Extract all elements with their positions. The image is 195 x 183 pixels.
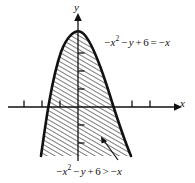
equation-of-boundary-label: −x2−y+6=−x — [104, 36, 170, 48]
graph-figure: −x2−y+6=−x −x2−y+6>−x x y — [0, 0, 195, 183]
variable-x-rhs: x — [165, 36, 170, 48]
y-axis-label: y — [74, 1, 79, 13]
shaded-region — [0, 0, 195, 183]
x-axis-label: x — [180, 97, 185, 109]
plus-operator: + — [86, 165, 95, 177]
variable-x-rhs: x — [117, 165, 122, 177]
minus-operator: − — [119, 36, 128, 48]
inequality-of-region-label: −x2−y+6>−x — [56, 165, 122, 177]
minus-operator: − — [71, 165, 80, 177]
plot-canvas — [0, 0, 195, 183]
plus-operator: + — [134, 36, 143, 48]
